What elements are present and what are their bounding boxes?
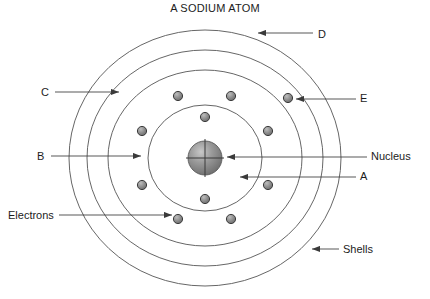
callout-leader-lines: [51, 33, 367, 249]
callout-label-b: B: [37, 150, 44, 162]
electron[interactable]: [173, 214, 182, 223]
electron[interactable]: [200, 194, 209, 203]
electron[interactable]: [263, 180, 272, 189]
electron[interactable]: [173, 91, 182, 100]
callout-label-e: E: [360, 92, 367, 104]
electron[interactable]: [137, 126, 146, 135]
electron[interactable]: [226, 214, 235, 223]
callout-label-shells: Shells: [343, 243, 373, 255]
callout-label-a: A: [360, 170, 367, 182]
electron[interactable]: [200, 112, 209, 121]
atom-diagram: A SODIUM ATOM: [0, 0, 430, 299]
callout-label-nucleus: Nucleus: [371, 150, 411, 162]
callout-label-d: D: [318, 28, 326, 40]
electron[interactable]: [137, 180, 146, 189]
nucleus[interactable]: [186, 139, 224, 177]
valence-electron[interactable]: [283, 93, 292, 102]
callout-label-c: C: [41, 86, 49, 98]
electron[interactable]: [263, 126, 272, 135]
electron[interactable]: [226, 91, 235, 100]
callout-label-electrons: Electrons: [8, 209, 54, 221]
